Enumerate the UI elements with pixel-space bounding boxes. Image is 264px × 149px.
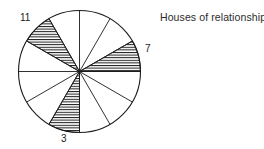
- wheel-spoke-300: [80, 72, 111, 125]
- chart-title: Houses of relationships: [160, 11, 264, 23]
- house-label-7: 7: [145, 43, 151, 54]
- house-label-3: 3: [61, 133, 67, 144]
- house-label-11: 11: [20, 12, 30, 23]
- wheel-spoke-330: [80, 72, 133, 103]
- chart-screenshot: Houses of relationships 11 7 3: [0, 0, 264, 149]
- sector-fill-group: [27, 19, 141, 133]
